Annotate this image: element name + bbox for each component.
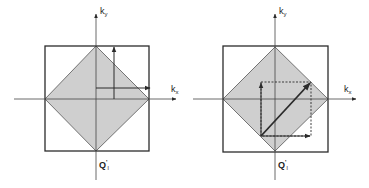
left-panel	[14, 14, 176, 180]
ky-label-sub: y	[105, 11, 108, 17]
q-label: Q'l	[99, 159, 109, 171]
kx-label-sub: x	[349, 89, 352, 95]
kx-label: kx	[171, 85, 179, 95]
brillouin-zone-diamond	[45, 46, 149, 151]
q-label: Q'l	[278, 159, 288, 171]
diagram-canvas	[0, 0, 369, 188]
kx-label: kx	[344, 85, 352, 95]
q-label-base: Q	[278, 160, 285, 170]
ky-label: ky	[100, 7, 108, 17]
kx-label-sub: x	[176, 89, 179, 95]
q-label-base: Q	[99, 160, 106, 170]
right-panel	[193, 14, 356, 180]
ky-label-sub: y	[284, 11, 287, 17]
q-label-sub: l	[107, 165, 108, 171]
q-label-sub: l	[286, 165, 287, 171]
ky-label: ky	[279, 7, 287, 17]
